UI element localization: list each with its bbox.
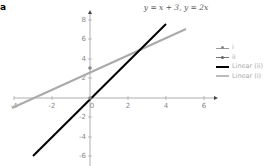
y-tick-label: 8 [82, 16, 86, 24]
x-tick-label: 0 [90, 102, 94, 110]
legend-item-ii: ii [216, 53, 263, 63]
x-tick-label: 2 [126, 102, 130, 110]
trendline-i [12, 29, 186, 108]
x-tick-label: 6 [202, 102, 207, 110]
legend-line-icon [216, 62, 229, 71]
y-tick-label: -4 [79, 133, 87, 141]
legend-line-icon [216, 72, 229, 81]
chart-title: y = x + 3, y = 2x [143, 3, 209, 12]
data-point-ii [88, 66, 92, 70]
x-tick-label: -2 [49, 102, 56, 110]
y-tick-label: -2 [79, 113, 86, 121]
legend-marker-icon [216, 43, 229, 52]
data-point-i [88, 96, 92, 100]
y-tick-label: -6 [79, 152, 87, 160]
x-tick-label: 4 [164, 102, 169, 110]
x-axis-arrow [214, 96, 218, 100]
legend-item-i: i [216, 43, 263, 53]
legend-item-linear-i: Linear (i) [216, 72, 263, 82]
y-tick-label: 6 [82, 35, 87, 43]
legend: i ii Linear (ii) Linear (i) [216, 43, 263, 81]
y-tick-label: 4 [82, 55, 87, 63]
chart-area: -4 -2 0 2 4 6 8 6 4 2 -2 -4 -6 y = x + 3… [0, 0, 271, 166]
legend-item-linear-ii: Linear (ii) [216, 62, 263, 72]
legend-marker-icon [216, 53, 229, 62]
y-axis-arrow [88, 10, 92, 14]
